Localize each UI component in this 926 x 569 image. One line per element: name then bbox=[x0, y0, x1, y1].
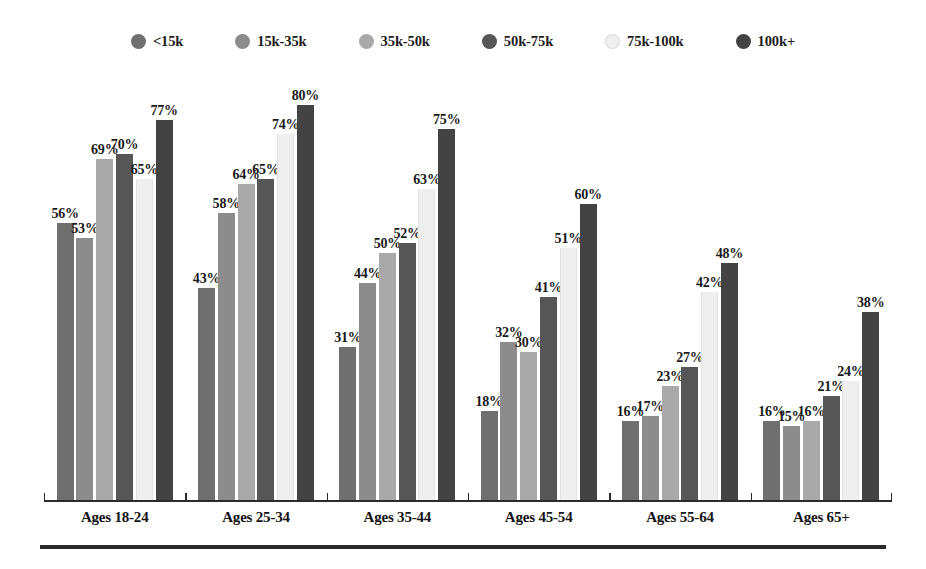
legend-item-35k-50k[interactable]: 35k-50k bbox=[359, 33, 430, 50]
legend-item-label: <15k bbox=[153, 33, 183, 50]
bar--15k[interactable]: 16% bbox=[763, 80, 780, 500]
bar-rect[interactable] bbox=[218, 213, 235, 500]
bar-rect[interactable] bbox=[721, 263, 738, 500]
bar-15k-35k[interactable]: 44% bbox=[359, 80, 376, 500]
bar-rect[interactable] bbox=[481, 411, 498, 500]
bar-75k-100k[interactable]: 65% bbox=[136, 80, 153, 500]
bar-15k-35k[interactable]: 58% bbox=[218, 80, 235, 500]
bar-rect[interactable] bbox=[238, 184, 255, 500]
bars-layer: 56%53%69%70%65%77%43%58%64%65%74%80%31%4… bbox=[44, 80, 892, 500]
bar-value-label: 44% bbox=[354, 267, 381, 281]
bar-75k-100k[interactable]: 74% bbox=[277, 80, 294, 500]
bar-rect[interactable] bbox=[842, 381, 859, 500]
bar--15k[interactable]: 16% bbox=[622, 80, 639, 500]
x-axis-tick bbox=[751, 493, 752, 501]
bar-rect[interactable] bbox=[277, 134, 294, 500]
bar-50k-75k[interactable]: 41% bbox=[540, 80, 557, 500]
bar-rect[interactable] bbox=[116, 154, 133, 500]
bar-35k-50k[interactable]: 23% bbox=[662, 80, 679, 500]
bar-rect[interactable] bbox=[198, 288, 215, 500]
bar-rect[interactable] bbox=[662, 386, 679, 500]
legend-item-15k-35k[interactable]: 15k-35k bbox=[235, 33, 306, 50]
legend-item-75k-100k[interactable]: 75k-100k bbox=[605, 33, 683, 50]
bar--15k[interactable]: 43% bbox=[198, 80, 215, 500]
bar-75k-100k[interactable]: 24% bbox=[842, 80, 859, 500]
bar-rect[interactable] bbox=[560, 248, 577, 500]
bar-75k-100k[interactable]: 42% bbox=[701, 80, 718, 500]
bar-value-label: 41% bbox=[535, 281, 562, 295]
bar-35k-50k[interactable]: 64% bbox=[238, 80, 255, 500]
bar--15k[interactable]: 31% bbox=[339, 80, 356, 500]
bar-rect[interactable] bbox=[379, 253, 396, 500]
bar-value-label: 77% bbox=[150, 104, 177, 118]
bar-rect[interactable] bbox=[520, 352, 537, 500]
bar-rect[interactable] bbox=[540, 297, 557, 500]
bar-group-ages-65+: 16%15%16%21%24%38% bbox=[751, 80, 892, 500]
bar-rect[interactable] bbox=[783, 426, 800, 500]
bar-rect[interactable] bbox=[156, 120, 173, 500]
bar-rect[interactable] bbox=[418, 189, 435, 500]
legend-item-label: 35k-50k bbox=[381, 33, 430, 50]
bar-50k-75k[interactable]: 65% bbox=[257, 80, 274, 500]
bar-rect[interactable] bbox=[257, 179, 274, 500]
legend-item-label: 100k+ bbox=[758, 33, 796, 50]
bar-rect[interactable] bbox=[803, 421, 820, 500]
bar-75k-100k[interactable]: 63% bbox=[418, 80, 435, 500]
bar-rect[interactable] bbox=[500, 342, 517, 500]
x-axis-tick bbox=[327, 493, 328, 501]
bar-value-label: 60% bbox=[574, 188, 601, 202]
bar-rect[interactable] bbox=[701, 292, 718, 500]
bar-100k+[interactable]: 75% bbox=[438, 80, 455, 500]
bar-rect[interactable] bbox=[862, 312, 879, 500]
bar-rect[interactable] bbox=[399, 243, 416, 500]
x-axis-label-ages-45-54: Ages 45-54 bbox=[468, 505, 609, 531]
bar-value-label: 48% bbox=[716, 247, 743, 261]
bar-rect[interactable] bbox=[76, 238, 93, 500]
bar--15k[interactable]: 18% bbox=[481, 80, 498, 500]
bar-rect[interactable] bbox=[580, 204, 597, 500]
bar--15k[interactable]: 56% bbox=[57, 80, 74, 500]
legend-item-50k-75k[interactable]: 50k-75k bbox=[482, 33, 553, 50]
bar-35k-50k[interactable]: 16% bbox=[803, 80, 820, 500]
x-axis-label-ages-35-44: Ages 35-44 bbox=[327, 505, 468, 531]
bar-15k-35k[interactable]: 15% bbox=[783, 80, 800, 500]
bar-15k-35k[interactable]: 17% bbox=[642, 80, 659, 500]
bar-100k+[interactable]: 77% bbox=[156, 80, 173, 500]
legend-swatch-circle-icon bbox=[482, 34, 497, 49]
legend-item--15k[interactable]: <15k bbox=[131, 33, 183, 50]
bar-100k+[interactable]: 80% bbox=[297, 80, 314, 500]
bar-rect[interactable] bbox=[642, 416, 659, 500]
bar-rect[interactable] bbox=[359, 283, 376, 500]
bar-rect[interactable] bbox=[136, 179, 153, 500]
legend-swatch-circle-icon bbox=[359, 34, 374, 49]
bar-50k-75k[interactable]: 52% bbox=[399, 80, 416, 500]
legend-swatch-circle-icon bbox=[235, 34, 250, 49]
bar-35k-50k[interactable]: 50% bbox=[379, 80, 396, 500]
bar-rect[interactable] bbox=[339, 347, 356, 500]
legend-item-label: 75k-100k bbox=[627, 33, 683, 50]
legend-item-100k-[interactable]: 100k+ bbox=[736, 33, 796, 50]
bar-value-label: 43% bbox=[193, 272, 220, 286]
bar-rect[interactable] bbox=[57, 223, 74, 500]
bar-rect[interactable] bbox=[763, 421, 780, 500]
bar-100k+[interactable]: 38% bbox=[862, 80, 879, 500]
bar-rect[interactable] bbox=[823, 396, 840, 500]
bar-15k-35k[interactable]: 32% bbox=[500, 80, 517, 500]
bar-value-label: 16% bbox=[798, 405, 825, 419]
bar-rect[interactable] bbox=[297, 105, 314, 500]
legend-swatch-circle-icon bbox=[736, 34, 751, 49]
bar-100k+[interactable]: 60% bbox=[580, 80, 597, 500]
bar-value-label: 27% bbox=[676, 351, 703, 365]
bar-100k+[interactable]: 48% bbox=[721, 80, 738, 500]
bar-75k-100k[interactable]: 51% bbox=[560, 80, 577, 500]
bar-value-label: 23% bbox=[656, 370, 683, 384]
bar-rect[interactable] bbox=[681, 367, 698, 500]
bar-value-label: 52% bbox=[394, 227, 421, 241]
bar-rect[interactable] bbox=[96, 159, 113, 500]
bar-rect[interactable] bbox=[622, 421, 639, 500]
bar-rect[interactable] bbox=[438, 129, 455, 500]
bar-50k-75k[interactable]: 21% bbox=[823, 80, 840, 500]
x-axis-tick bbox=[44, 493, 45, 501]
bar-value-label: 51% bbox=[555, 232, 582, 246]
bar-50k-75k[interactable]: 70% bbox=[116, 80, 133, 500]
